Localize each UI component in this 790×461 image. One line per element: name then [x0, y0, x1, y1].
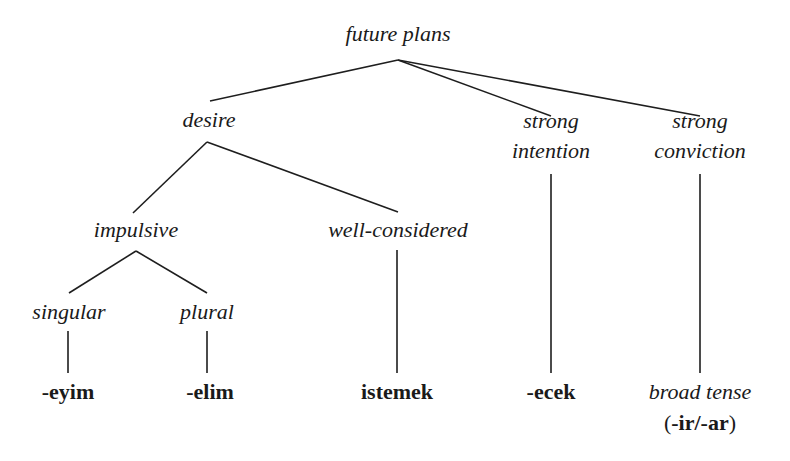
- node-strong-conviction-line2: conviction: [654, 136, 746, 166]
- leaf-broad-tense-suffix: (-ir/-ar): [664, 410, 736, 436]
- leaf-eyim: -eyim: [42, 379, 95, 405]
- node-strong-conviction-line1: strong: [654, 106, 746, 136]
- edge-desire-well-considered: [207, 142, 398, 212]
- node-future-plans: future plans: [346, 21, 451, 47]
- node-strong-intention: strong intention: [512, 106, 590, 166]
- edge-future-plans-desire: [210, 60, 398, 101]
- edge-impulsive-singular: [69, 251, 136, 293]
- suffix-ir-ar: -ir/-ar: [671, 410, 728, 435]
- node-well-considered: well-considered: [328, 217, 468, 243]
- paren-close: ): [729, 410, 736, 435]
- leaf-elim: -elim: [186, 379, 234, 405]
- edge-impulsive-plural: [136, 251, 207, 293]
- node-strong-conviction: strong conviction: [654, 106, 746, 166]
- node-strong-intention-line2: intention: [512, 136, 590, 166]
- node-plural: plural: [180, 299, 234, 325]
- leaf-istemek: istemek: [361, 379, 433, 405]
- leaf-broad-tense: broad tense: [649, 379, 751, 405]
- node-singular: singular: [32, 299, 105, 325]
- node-strong-intention-line1: strong: [512, 106, 590, 136]
- node-impulsive: impulsive: [94, 217, 178, 243]
- node-desire: desire: [183, 107, 236, 133]
- leaf-ecek: -ecek: [527, 379, 576, 405]
- edge-desire-impulsive: [133, 142, 207, 213]
